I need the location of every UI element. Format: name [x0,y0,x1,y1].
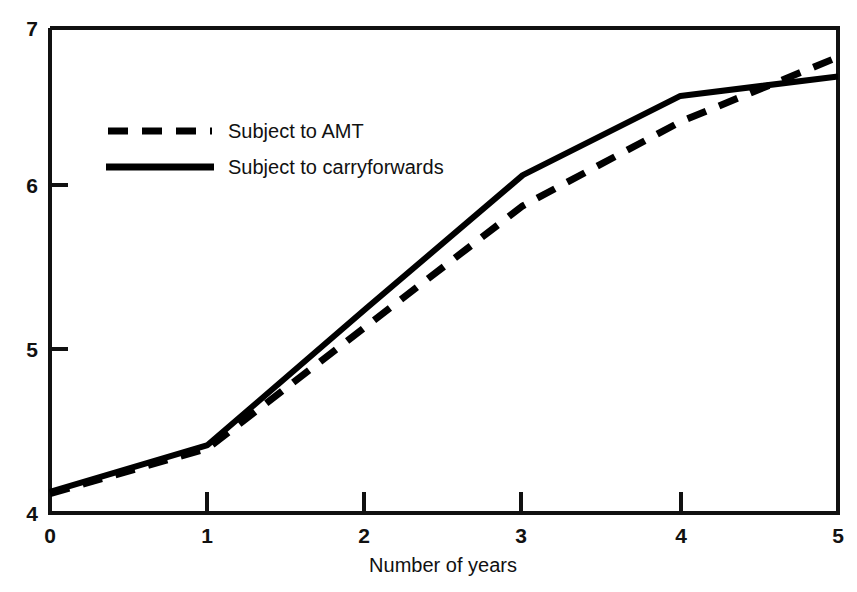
x-axis-ticks [207,492,681,513]
y-axis-label-6: 6 [8,175,38,196]
y-axis-label-4: 4 [8,503,38,524]
x-axis-title: Number of years [369,554,517,577]
legend-swatches [106,131,214,167]
legend-label-subject-to-amt: Subject to AMT [228,120,364,143]
y-axis-label-5: 5 [8,339,38,360]
x-axis-label-5: 5 [832,525,844,546]
x-axis-label-3: 3 [515,525,527,546]
series-line-subject-to-carryforwards [50,77,838,492]
legend-label-subject-to-carryforwards: Subject to carryforwards [228,156,444,179]
y-axis-label-7: 7 [8,18,38,39]
y-axis-ticks [50,185,68,349]
x-axis-label-1: 1 [201,525,213,546]
series-line-subject-to-amt [50,57,838,494]
x-axis-label-0: 0 [44,525,56,546]
chart-figure: 7 6 5 4 0 1 2 3 4 5 Number of years Subj… [0,0,857,592]
line-chart-canvas [0,0,857,592]
data-series-layer [50,57,838,494]
x-axis-label-4: 4 [675,525,687,546]
x-axis-label-2: 2 [358,525,370,546]
